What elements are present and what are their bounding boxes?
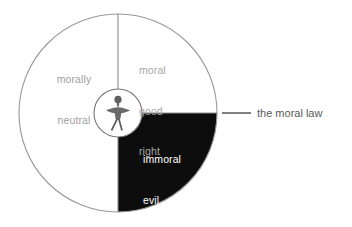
quadrant-label-immoral-evil-wrong: immoral evil wrong (143, 126, 181, 227)
quadrant-label-line: moral (139, 64, 166, 78)
quadrant-label-line: morally (38, 73, 110, 87)
figure-neck (117, 103, 119, 107)
figure-head (114, 96, 121, 104)
quadrant-label-line: evil (143, 194, 181, 208)
quadrant-label-morally-neutral: morally neutral (38, 46, 110, 154)
moral-law-diagram: morally neutral moral good right immoral… (0, 0, 352, 227)
callout-label-the-moral-law: the moral law (257, 106, 322, 120)
quadrant-label-line: good (139, 105, 166, 119)
quadrant-label-line: immoral (143, 153, 181, 167)
quadrant-label-line: neutral (38, 114, 110, 128)
